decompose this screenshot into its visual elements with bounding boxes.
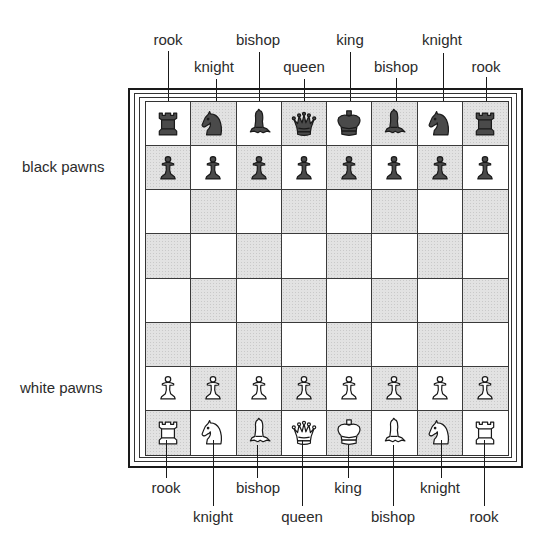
black-pawn-icon — [151, 151, 185, 185]
black-queen-icon — [287, 107, 321, 141]
black-pawn-icon — [377, 151, 411, 185]
board-square — [327, 102, 372, 146]
board-square — [237, 367, 282, 411]
board-square — [372, 367, 417, 411]
board-square — [146, 279, 191, 323]
white-queen-icon — [287, 416, 321, 450]
board-square — [372, 234, 417, 278]
board-square — [327, 190, 372, 234]
black-rook-icon — [151, 107, 185, 141]
board-square — [191, 367, 236, 411]
board-square — [418, 102, 463, 146]
board-square — [463, 190, 508, 234]
label-bottom-rook-a: rook — [151, 480, 180, 495]
board-square — [418, 323, 463, 367]
board-square — [146, 323, 191, 367]
board-square — [327, 367, 372, 411]
board-square — [191, 323, 236, 367]
board-square — [282, 146, 327, 190]
leader-line — [213, 440, 214, 506]
board-square — [237, 146, 282, 190]
label-bottom-king: king — [334, 480, 362, 495]
black-bishop-icon — [242, 107, 276, 141]
board-square — [372, 190, 417, 234]
label-bottom-bishop-c: bishop — [236, 480, 280, 495]
board-square — [191, 279, 236, 323]
board-square — [463, 102, 508, 146]
board-square — [282, 279, 327, 323]
board-square — [418, 146, 463, 190]
black-pawn-icon — [468, 151, 502, 185]
board-square — [237, 279, 282, 323]
black-knight-icon — [196, 107, 230, 141]
board-square — [327, 279, 372, 323]
board-square — [282, 234, 327, 278]
board-square — [237, 190, 282, 234]
board-square — [463, 367, 508, 411]
board-square — [372, 102, 417, 146]
black-pawn-icon — [242, 151, 276, 185]
board-square — [282, 411, 327, 455]
board-square — [418, 279, 463, 323]
white-bishop-icon — [377, 416, 411, 450]
board-square — [418, 234, 463, 278]
board-square — [372, 146, 417, 190]
board-square — [282, 367, 327, 411]
board-square — [191, 234, 236, 278]
white-rook-icon — [468, 416, 502, 450]
label-bottom-knight-g: knight — [420, 480, 460, 495]
white-knight-icon — [423, 416, 457, 450]
board-square — [463, 234, 508, 278]
label-top-king: king — [336, 32, 364, 47]
board-square — [146, 234, 191, 278]
black-king-icon — [332, 107, 366, 141]
board-square — [282, 190, 327, 234]
leader-line — [348, 445, 349, 478]
label-black-pawns: black pawns — [22, 159, 105, 174]
label-top-knight-g: knight — [422, 32, 462, 47]
white-pawn-icon — [468, 371, 502, 405]
leader-line — [393, 445, 394, 506]
board-square — [418, 367, 463, 411]
label-top-queen: queen — [283, 59, 325, 74]
board-square — [282, 323, 327, 367]
white-pawn-icon — [423, 371, 457, 405]
board-square — [191, 146, 236, 190]
board-square — [463, 146, 508, 190]
black-pawn-icon — [332, 151, 366, 185]
board-square — [237, 411, 282, 455]
board-square — [282, 102, 327, 146]
board-square — [146, 146, 191, 190]
board-square — [327, 234, 372, 278]
white-rook-icon — [151, 416, 185, 450]
board-square — [191, 102, 236, 146]
chess-board — [145, 101, 509, 456]
white-bishop-icon — [242, 416, 276, 450]
black-pawn-icon — [196, 151, 230, 185]
black-bishop-icon — [377, 107, 411, 141]
label-bottom-bishop-f: bishop — [371, 509, 415, 524]
label-white-pawns: white pawns — [20, 380, 103, 395]
white-pawn-icon — [332, 371, 366, 405]
board-square — [372, 323, 417, 367]
label-top-rook-a: rook — [153, 32, 182, 47]
leader-line — [302, 440, 303, 506]
board-square — [146, 367, 191, 411]
label-top-rook-h: rook — [471, 59, 500, 74]
white-pawn-icon — [242, 371, 276, 405]
white-pawn-icon — [196, 371, 230, 405]
label-bottom-rook-h: rook — [469, 509, 498, 524]
white-pawn-icon — [287, 371, 321, 405]
leader-line — [441, 440, 442, 478]
white-pawn-icon — [151, 371, 185, 405]
black-rook-icon — [468, 107, 502, 141]
board-square — [237, 102, 282, 146]
board-square — [237, 234, 282, 278]
label-top-knight-b: knight — [194, 59, 234, 74]
board-square — [372, 411, 417, 455]
board-square — [463, 279, 508, 323]
board-square — [191, 190, 236, 234]
label-bottom-queen: queen — [281, 509, 323, 524]
black-pawn-icon — [423, 151, 457, 185]
white-pawn-icon — [377, 371, 411, 405]
